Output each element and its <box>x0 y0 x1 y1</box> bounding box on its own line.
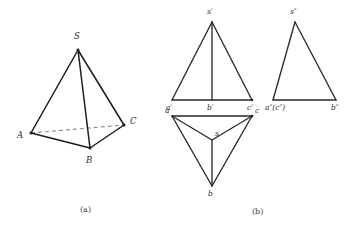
vertex-dot-S <box>77 49 80 52</box>
vertex-label-b-prime: b′ <box>207 103 214 112</box>
caption-b: (b) <box>252 207 263 216</box>
edge-B-C <box>90 125 124 148</box>
vertex-label-b-double-prime: b″ <box>331 103 339 112</box>
vertex-label-A: A <box>16 130 23 140</box>
vertex-dot-A <box>30 132 33 135</box>
edge-S-A <box>31 50 78 133</box>
vertex-dot-B <box>89 147 92 150</box>
edge-sprime-aprime <box>172 22 212 100</box>
edge-S-B <box>78 50 90 148</box>
vertex-dot-c-top <box>251 115 254 118</box>
vertex-label-s-double-prime: s″ <box>290 7 297 16</box>
edge-sdprime-acdprime <box>273 22 295 100</box>
vertex-label-a: a <box>165 106 169 115</box>
vertex-label-b: b <box>208 189 213 198</box>
caption-a: (a) <box>80 205 91 214</box>
edge-sprime-cprime <box>212 22 252 100</box>
captions-group: (a) (b) <box>80 205 263 216</box>
side-view-group: s″ a″(c″) b″ <box>265 7 339 112</box>
vertex-dot-c-prime <box>251 99 254 102</box>
edge-a-b <box>172 116 212 186</box>
edge-c-b <box>212 116 252 186</box>
vertex-label-ac-double-prime: a″(c″) <box>265 103 285 112</box>
vertex-label-c: c <box>255 106 260 115</box>
front-view-group: s′ a′ b′ c′ <box>166 7 253 112</box>
vertex-label-c-prime: c′ <box>247 103 253 112</box>
edge-A-B <box>31 133 90 148</box>
edge-a-s <box>172 116 212 140</box>
vertex-dot-C <box>123 124 126 127</box>
vertex-label-s: s <box>215 129 219 138</box>
edge-A-C-hidden <box>31 125 124 133</box>
pictorial-view-group: S A B C <box>16 31 137 165</box>
figure-root: S A B C s′ a′ b′ c′ a c b s <box>0 0 357 229</box>
edge-sdprime-bdprime <box>295 22 336 100</box>
vertex-label-B: B <box>85 155 92 165</box>
vertex-label-C: C <box>130 116 137 126</box>
vertex-label-S: S <box>74 31 80 41</box>
diagram-canvas: S A B C s′ a′ b′ c′ a c b s <box>0 0 357 229</box>
vertex-label-s-prime: s′ <box>207 7 213 16</box>
edge-S-C <box>78 50 124 125</box>
top-view-group: a c b s <box>165 106 260 198</box>
